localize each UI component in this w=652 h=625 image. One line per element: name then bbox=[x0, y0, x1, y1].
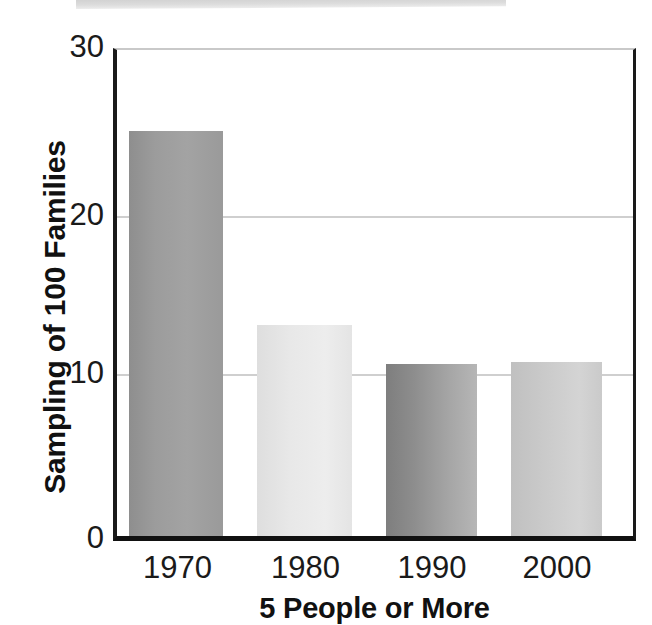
bar-1970[interactable] bbox=[129, 131, 223, 536]
plot-inner bbox=[117, 50, 633, 536]
bar-chart-figure: Sampling of 100 Families 30 20 10 0 1970… bbox=[0, 0, 652, 625]
bars-layer bbox=[117, 50, 633, 536]
y-tick-label-0: 0 bbox=[40, 522, 104, 553]
bar-1990[interactable] bbox=[386, 364, 477, 536]
y-tick-label-10: 10 bbox=[40, 357, 104, 388]
x-axis-title: 5 People or More bbox=[113, 592, 636, 625]
x-axis-tick-labels: 1970 1980 1990 2000 bbox=[113, 552, 636, 592]
y-tick-label-20: 20 bbox=[40, 199, 104, 230]
bar-1980[interactable] bbox=[257, 325, 352, 536]
x-tick-label-1980: 1980 bbox=[243, 552, 368, 583]
plot-area bbox=[113, 48, 636, 541]
y-axis-tick-labels: 30 20 10 0 bbox=[40, 0, 104, 625]
bar-2000[interactable] bbox=[511, 362, 602, 536]
y-tick-label-30: 30 bbox=[40, 31, 104, 62]
x-tick-label-2000: 2000 bbox=[497, 552, 617, 583]
x-tick-label-1970: 1970 bbox=[115, 552, 240, 583]
x-tick-label-1990: 1990 bbox=[372, 552, 492, 583]
